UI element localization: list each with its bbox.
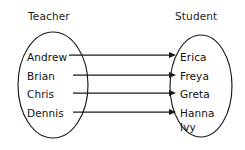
set-mapping-diagram: Teacher Andrew Brian Chris Dennis Studen… — [0, 0, 245, 150]
edge-chris-greta — [73, 90, 176, 96]
set-title-teacher: Teacher — [27, 10, 70, 22]
node-label-ivy: Ivy — [180, 121, 196, 133]
node-label-andrew: Andrew — [27, 51, 68, 63]
node-label-dennis: Dennis — [27, 107, 64, 119]
set-group-teacher: Teacher Andrew Brian Chris Dennis — [18, 10, 88, 138]
node-label-freya: Freya — [180, 70, 209, 82]
diagram-canvas: Teacher Andrew Brian Chris Dennis Studen… — [0, 0, 245, 150]
edge-dennis-hanna — [73, 109, 176, 115]
node-label-chris: Chris — [27, 88, 54, 100]
node-label-greta: Greta — [180, 88, 210, 100]
edge-andrew-erica — [69, 52, 176, 58]
arrowhead-chris-greta — [169, 90, 176, 96]
node-label-erica: Erica — [180, 51, 207, 63]
arrowhead-brian-freya — [169, 72, 176, 78]
set-ellipse-teacher — [18, 32, 88, 138]
edge-brian-freya — [73, 72, 176, 78]
node-label-brian: Brian — [27, 70, 55, 82]
node-label-hanna: Hanna — [180, 107, 215, 119]
set-title-student: Student — [175, 10, 217, 22]
set-group-student: Student Erica Freya Greta Hanna Ivy — [170, 10, 232, 137]
